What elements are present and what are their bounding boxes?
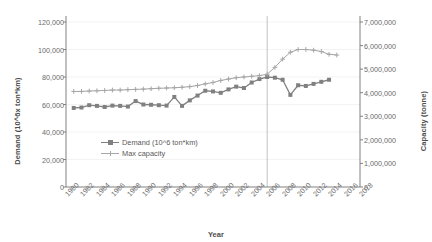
legend-item[interactable]: Demand (10^6 ton*km) [101, 137, 198, 148]
legend-item[interactable]: Max capacity [101, 148, 198, 159]
square-marker-icon [101, 138, 119, 147]
legend-label: Max capacity [122, 148, 165, 159]
chart-container: Demand (10^6x ton*km) Capacity (tonne) Y… [0, 0, 432, 242]
plus-marker-icon [101, 149, 119, 158]
plot-area [0, 0, 432, 242]
legend-label: Demand (10^6 ton*km) [122, 137, 198, 148]
chart-legend: Demand (10^6 ton*km)Max capacity [101, 137, 198, 159]
